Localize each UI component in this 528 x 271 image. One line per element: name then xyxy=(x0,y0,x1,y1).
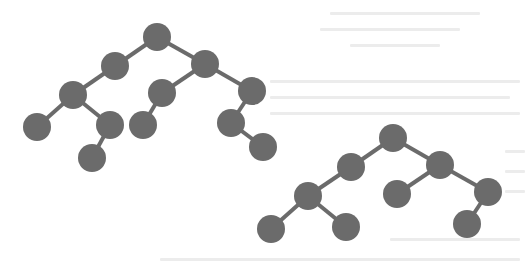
tree-node xyxy=(383,180,411,208)
tree-node xyxy=(101,52,129,80)
tree-node xyxy=(129,111,157,139)
tree-2 xyxy=(257,124,502,243)
tree-node xyxy=(249,133,277,161)
tree-1 xyxy=(23,23,277,172)
tree-node xyxy=(257,215,285,243)
tree-node xyxy=(238,77,266,105)
tree-node xyxy=(96,111,124,139)
tree-diagram xyxy=(0,0,528,271)
tree-node xyxy=(78,144,106,172)
tree-node xyxy=(59,81,87,109)
tree-node xyxy=(474,178,502,206)
tree-node xyxy=(426,151,454,179)
tree-node xyxy=(217,109,245,137)
tree-node xyxy=(23,113,51,141)
tree-node xyxy=(337,153,365,181)
tree-node xyxy=(453,210,481,238)
tree-node xyxy=(143,23,171,51)
tree-node xyxy=(191,50,219,78)
tree-node xyxy=(332,213,360,241)
tree-node xyxy=(379,124,407,152)
tree-node xyxy=(294,182,322,210)
tree-node xyxy=(148,79,176,107)
